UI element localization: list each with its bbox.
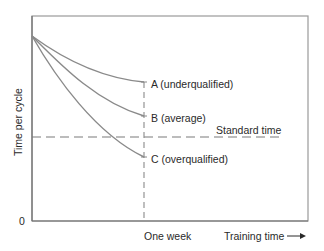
learning-curve-chart: A (underqualified) B (average) Standard … xyxy=(0,0,324,251)
x-axis-label: Training time xyxy=(224,230,284,242)
curve-c xyxy=(32,36,144,157)
label-standard-time: Standard time xyxy=(216,124,282,136)
label-curve-c: C (overqualified) xyxy=(151,153,228,165)
x-tick-one-week: One week xyxy=(144,230,192,242)
y-tick-zero: 0 xyxy=(19,215,25,227)
curve-a xyxy=(32,36,144,82)
y-axis-label: Time per cycle xyxy=(12,88,24,156)
label-curve-b: B (average) xyxy=(151,112,206,124)
label-curve-a: A (underqualified) xyxy=(151,78,233,90)
arrow-right-icon xyxy=(287,233,306,239)
